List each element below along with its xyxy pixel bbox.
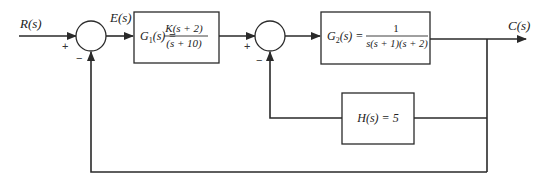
sum2-plus-sign: +: [244, 40, 250, 52]
sum1-minus-sign: −: [76, 52, 82, 64]
outer-feedback-line: [91, 52, 487, 172]
h-label: H(s) = 5: [356, 111, 398, 125]
sum2-minus-sign: −: [256, 54, 262, 66]
block-diagram: R(s) + − E(s) G1(s) = K(s + 2) (s + 10) …: [0, 0, 543, 181]
input-label: R(s): [19, 16, 42, 31]
g2-lhs: G2(s) =: [327, 29, 363, 45]
g2-numerator: 1: [393, 22, 399, 34]
output-label: C(s): [508, 18, 530, 33]
g1-numerator: K(s + 2): [164, 22, 203, 35]
error-label: E(s): [109, 10, 132, 25]
summing-junction-2: [255, 21, 285, 51]
summing-junction-1: [76, 21, 106, 51]
g1-denominator: (s + 10): [166, 37, 202, 50]
sum1-plus-sign: +: [62, 40, 68, 52]
g2-denominator: s(s + 1)(s + 2): [366, 38, 428, 50]
